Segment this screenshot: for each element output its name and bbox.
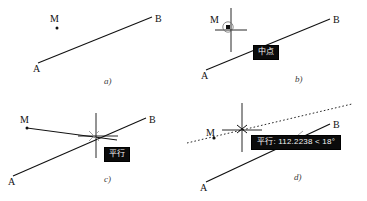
snap-tooltip: 中点	[253, 45, 279, 60]
crosshair-cursor	[215, 8, 247, 52]
rubber-band-line	[27, 128, 117, 140]
segment-ab	[206, 124, 330, 182]
label-m: M	[210, 15, 219, 25]
label-m: M	[20, 115, 29, 125]
snap-tooltip: 平行	[104, 147, 130, 162]
panel-a-caption: a)	[104, 76, 112, 86]
label-b: B	[333, 15, 340, 25]
panel-b-caption: b)	[295, 74, 303, 84]
panel-a: M A B a)	[0, 0, 183, 100]
snap-node-marker	[226, 25, 230, 29]
label-a: A	[200, 183, 207, 193]
point-m-marker	[26, 127, 29, 130]
label-m: M	[206, 128, 215, 138]
panel-d-drawing	[184, 100, 367, 200]
label-b: B	[149, 115, 156, 125]
label-b: B	[155, 14, 162, 24]
label-a: A	[201, 71, 208, 81]
label-b: B	[333, 120, 340, 130]
snap-tooltip: 平行: 112.2238 < 18°	[251, 135, 341, 150]
point-m-marker	[56, 27, 59, 30]
panel-b: M A B 中点 b)	[184, 0, 367, 100]
panel-c: M A B 平行 c)	[0, 100, 183, 200]
label-a: A	[33, 64, 40, 74]
panel-d-caption: d)	[294, 172, 302, 182]
panel-c-caption: c)	[104, 174, 111, 184]
label-a: A	[8, 177, 15, 187]
figure-root: M A B a) M A B 中点 b)	[0, 0, 367, 201]
panel-d: M A B 平行: 112.2238 < 18° d)	[184, 100, 367, 200]
label-m: M	[50, 14, 59, 24]
